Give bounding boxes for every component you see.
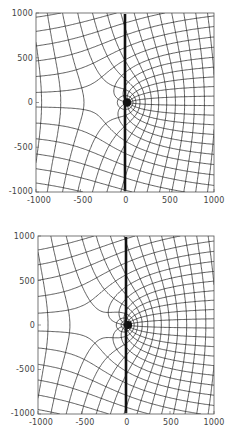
- y-tick-label: 0: [5, 322, 35, 330]
- contour-plot-bottom: [0, 0, 232, 446]
- figure-caption-fragment: [0, 440, 232, 446]
- y-tick-label: -500: [5, 366, 35, 374]
- x-tick-label: 1000: [199, 419, 229, 427]
- y-tick-label: 1000: [5, 233, 35, 241]
- plot-bottom: 1000 500 0 -500 -1000 -1000 -500 0 500 1…: [0, 0, 232, 446]
- x-tick-label: 0: [112, 419, 142, 427]
- x-tick-label: -1000: [26, 419, 56, 427]
- x-tick-label: -500: [70, 419, 100, 427]
- y-tick-label: -1000: [5, 410, 35, 418]
- x-tick-label: 500: [156, 419, 186, 427]
- y-tick-label: 500: [5, 278, 35, 286]
